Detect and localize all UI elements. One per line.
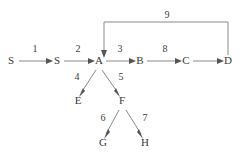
edge-a-to-f: 5 <box>102 70 124 97</box>
arrow-head-9 <box>217 58 224 64</box>
node-a: A <box>95 54 103 66</box>
edge-f-to-g: 6 <box>101 110 120 139</box>
edge-label-2: 2 <box>76 43 81 54</box>
node-s-start: S <box>8 54 14 66</box>
node-c: C <box>182 54 189 66</box>
node-b: B <box>136 54 143 66</box>
edge-f-to-h: 7 <box>126 110 148 139</box>
node-f: F <box>119 94 125 106</box>
edge-label-4: 4 <box>75 71 80 82</box>
arrow-head-3 <box>129 58 136 64</box>
edge-label-9: 9 <box>165 9 170 20</box>
edge-b-to-c: 8 <box>147 43 182 64</box>
edge-a-to-e: 4 <box>75 70 97 97</box>
edge-s2-to-a: 2 <box>64 43 95 64</box>
edge-label-6: 6 <box>101 112 106 123</box>
node-g: G <box>99 136 107 148</box>
edge-label-3: 3 <box>118 43 123 54</box>
arrow-head-2 <box>88 58 95 64</box>
edge-a-to-b: 3 <box>106 43 136 64</box>
graph-svg: 1 2 3 8 9 <box>0 0 239 155</box>
edge-c-to-d <box>193 58 224 64</box>
arrow-head-1 <box>46 58 53 64</box>
edge-label-1: 1 <box>33 43 38 54</box>
node-d: D <box>224 54 232 66</box>
edge-label-8: 8 <box>163 43 168 54</box>
edge-s1-to-s2: 1 <box>19 43 53 64</box>
node-e: E <box>75 94 82 106</box>
edge-label-5: 5 <box>119 71 124 82</box>
edge-label-7: 7 <box>143 112 148 123</box>
node-h: H <box>141 136 149 148</box>
node-s-second: S <box>54 54 60 66</box>
arrow-head-8 <box>175 58 182 64</box>
diagram-canvas: 1 2 3 8 9 <box>0 0 239 155</box>
